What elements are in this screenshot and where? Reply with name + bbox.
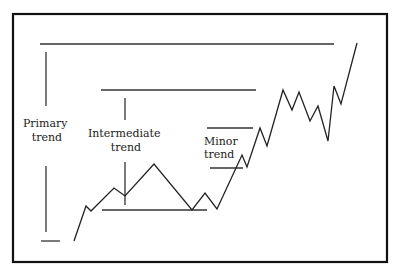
trend-diagram: Primary trend Intermediate trend Minor t…: [0, 0, 399, 274]
label-minor-trend: Minor trend: [204, 135, 241, 161]
label-intermediate-trend: Intermediate trend: [88, 127, 164, 154]
diagram-frame: [13, 14, 387, 262]
label-primary-trend: Primary trend: [23, 117, 71, 144]
